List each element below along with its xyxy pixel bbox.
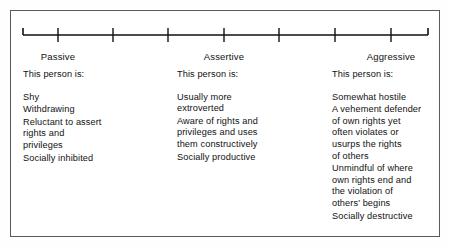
trait-line: Socially destructive [332, 211, 442, 223]
trait-line: Somewhat hostile [332, 92, 442, 104]
trait-line: often violates or [332, 127, 442, 139]
trait-group: Somewhat hostile [332, 92, 442, 104]
trait-line: them constructively [177, 139, 325, 151]
trait-line: Shy [23, 92, 173, 104]
trait-line: Unmindful of where [332, 163, 442, 175]
trait-line: of others [332, 151, 442, 163]
trait-group: Reluctant to assertrights andprivileges [23, 117, 173, 152]
column-heading: This person is: [23, 69, 173, 81]
trait-group: Withdrawing [23, 104, 173, 116]
trait-line: privileges [23, 140, 173, 152]
trait-line: usurps the rights [332, 139, 442, 151]
assertiveness-continuum-figure: Passive Assertive Aggressive This person… [0, 0, 449, 249]
column-assertive: This person is: Usually moreextrovertedA… [177, 69, 325, 164]
continuum-scale: Passive Assertive Aggressive [11, 11, 441, 61]
trait-group: Socially productive [177, 152, 325, 164]
scale-label-aggressive: Aggressive [367, 51, 416, 62]
trait-group: Socially inhibited [23, 153, 173, 165]
trait-line: extroverted [177, 103, 325, 115]
column-heading: This person is: [177, 69, 325, 81]
trait-group: Usually moreextroverted [177, 92, 325, 115]
trait-line: of own rights yet [332, 116, 442, 128]
trait-line: Reluctant to assert [23, 117, 173, 129]
scale-label-assertive: Assertive [204, 51, 244, 62]
trait-line: Withdrawing [23, 104, 173, 116]
trait-line: Usually more [177, 92, 325, 104]
column-heading: This person is: [332, 69, 442, 81]
scale-label-passive: Passive [41, 51, 75, 62]
trait-line: A vehement defender [332, 104, 442, 116]
column-trait-groups: Somewhat hostileA vehement defenderof ow… [332, 92, 442, 223]
trait-group: Socially destructive [332, 211, 442, 223]
trait-line: Socially inhibited [23, 153, 173, 165]
trait-group: A vehement defenderof own rights yetofte… [332, 104, 442, 162]
trait-line: the violation of [332, 186, 442, 198]
column-trait-groups: ShyWithdrawingReluctant to assertrights … [23, 92, 173, 165]
trait-line: rights and [23, 128, 173, 140]
trait-group: Aware of rights andprivileges and usesth… [177, 116, 325, 151]
trait-group: Unmindful of whereown rights end andthe … [332, 163, 442, 209]
column-aggressive: This person is: Somewhat hostileA veheme… [332, 69, 442, 223]
column-trait-groups: Usually moreextrovertedAware of rights a… [177, 92, 325, 164]
trait-group: Shy [23, 92, 173, 104]
trait-line: Aware of rights and [177, 116, 325, 128]
column-passive: This person is: ShyWithdrawingReluctant … [23, 69, 173, 165]
trait-line: Socially productive [177, 152, 325, 164]
trait-line: others' begins [332, 198, 442, 210]
figure-frame: Passive Assertive Aggressive This person… [10, 10, 440, 237]
trait-line: privileges and uses [177, 127, 325, 139]
trait-line: own rights end and [332, 175, 442, 187]
